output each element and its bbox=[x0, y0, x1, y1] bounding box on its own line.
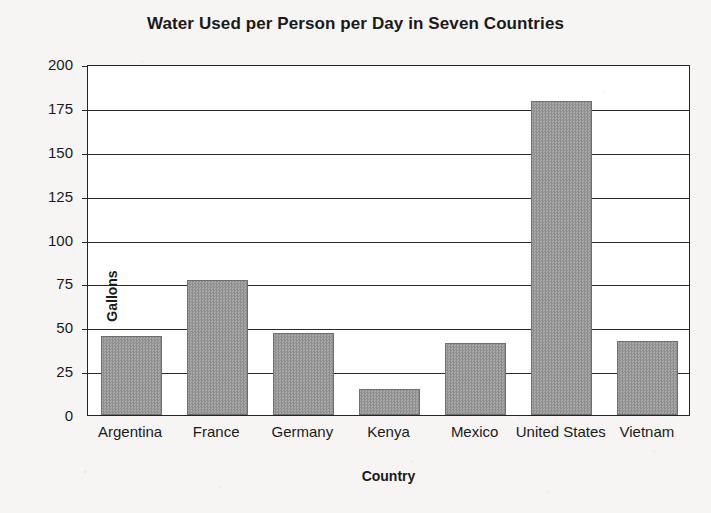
bar bbox=[359, 389, 420, 415]
y-axis-title: Gallons bbox=[104, 251, 120, 341]
y-axis-tick-label: 200 bbox=[0, 57, 73, 72]
chart-title: Water Used per Person per Day in Seven C… bbox=[0, 14, 711, 34]
bar bbox=[617, 341, 678, 415]
x-axis-title: Country bbox=[87, 468, 690, 484]
y-axis-tick-label: 50 bbox=[0, 320, 73, 335]
y-axis-tick-label: 75 bbox=[0, 276, 73, 291]
y-axis-tick-label: 25 bbox=[0, 364, 73, 379]
bar bbox=[445, 343, 506, 415]
x-axis-tick-labels: ArgentinaFranceGermanyKenyaMexicoUnited … bbox=[87, 422, 711, 448]
y-axis-tick-label: 150 bbox=[0, 145, 73, 160]
y-axis-tick-label: 125 bbox=[0, 189, 73, 204]
bar bbox=[101, 336, 162, 415]
y-axis-tick-label: 175 bbox=[0, 101, 73, 116]
bar bbox=[273, 333, 334, 415]
plot-area: Gallons bbox=[87, 65, 690, 416]
y-axis-tick-label: 100 bbox=[0, 233, 73, 248]
bar bbox=[187, 280, 248, 415]
x-axis-tick-label: Vietnam bbox=[587, 422, 707, 442]
y-axis-tick-label: 0 bbox=[0, 408, 73, 423]
bar bbox=[531, 101, 592, 415]
bar-series bbox=[88, 66, 689, 415]
